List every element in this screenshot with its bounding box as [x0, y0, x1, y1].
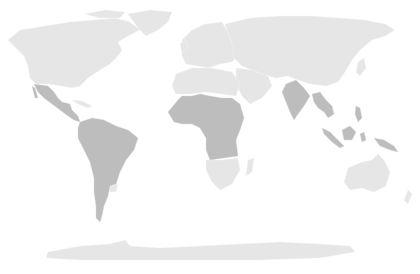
region-philippines[interactable] [355, 106, 362, 122]
region-sulawesi[interactable] [360, 132, 366, 142]
region-north-africa[interactable] [172, 68, 240, 96]
region-madagascar[interactable] [246, 158, 254, 176]
region-australia[interactable] [344, 154, 390, 192]
region-sumatra-java[interactable] [322, 128, 344, 148]
region-southeast-asia[interactable] [312, 92, 334, 118]
region-sub-saharan-africa[interactable] [168, 94, 244, 160]
region-india[interactable] [282, 80, 310, 120]
world-map [0, 0, 420, 274]
region-arctic-islands[interactable] [85, 10, 125, 18]
region-japan[interactable] [356, 58, 366, 76]
region-borneo[interactable] [342, 126, 356, 140]
region-new-zealand[interactable] [404, 190, 412, 204]
region-southern-africa[interactable] [206, 158, 240, 190]
highlighted-layer [32, 80, 398, 222]
region-south-america[interactable] [78, 118, 138, 222]
region-new-guinea[interactable] [374, 138, 398, 152]
region-north-america[interactable] [8, 18, 140, 88]
region-mexico-central-america[interactable] [34, 84, 80, 122]
region-antarctica[interactable] [46, 240, 355, 260]
region-caribbean[interactable] [72, 100, 92, 108]
